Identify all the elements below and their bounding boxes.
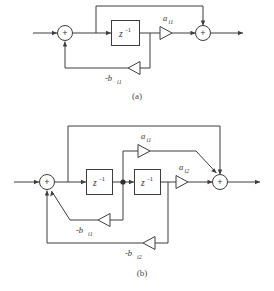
panel-b-delay-block-1-exponent: -1 — [100, 175, 105, 182]
figure-canvas: + z -1 a i1 + — [0, 0, 274, 291]
panel-a-feedback-right-segment — [140, 33, 150, 68]
panel-a-delay-block — [112, 21, 140, 46]
panel-a-caption: (a) — [132, 91, 142, 101]
panel-b-feedback-gain-2-label: -b — [125, 248, 132, 258]
panel-b-bypass-arrowhead — [218, 170, 222, 175]
panel-b-delay-block-1-label: z — [92, 178, 97, 188]
panel-b-right-summer-plus: + — [217, 177, 222, 187]
panel-b-delay-block-1 — [87, 170, 113, 195]
panel-b-left-summer-plus: + — [44, 177, 49, 187]
panel-a-feedback-gain-subscript: i1 — [117, 79, 122, 85]
panel-b-feedback-gain-1-triangle — [98, 214, 110, 227]
panel-b-delay-block-2 — [135, 170, 161, 195]
panel-a-delay-block-label: z — [118, 29, 123, 39]
panel-b-forward-gain-1-triangle — [138, 145, 150, 158]
panel-b-feedback2-arrowhead — [45, 191, 49, 196]
panel-a-left-summer-plus: + — [62, 28, 67, 38]
panel-b-feedback1-arrowhead — [50, 191, 54, 196]
panel-a-output-arrowhead — [238, 31, 243, 35]
panel-a-forward-gain-triangle — [160, 27, 172, 40]
panel-b-input-arrowhead — [34, 180, 39, 184]
panel-a-feedback-gain-label: -b — [105, 73, 112, 83]
panel-b-delay1-input-arrowhead — [81, 180, 86, 184]
signal-flow-diagram: + z -1 a i1 + — [0, 0, 274, 291]
panel-a-delay-block-exponent: -1 — [126, 26, 131, 33]
panel-a-input-arrowhead — [52, 31, 57, 35]
panel-a-bypass-arrowhead — [201, 21, 205, 26]
panel-a-feedback-gain-triangle — [128, 62, 140, 75]
panel-b-feedback-gain-2-triangle — [143, 237, 155, 250]
panel-b-gain1-arrowhead — [211, 168, 216, 173]
panel-b-output-arrowhead — [255, 180, 260, 184]
panel-b-feedback-gain-1-label: -b — [76, 225, 83, 235]
panel-b-forward-gain-2-label: a — [179, 162, 183, 172]
panel-a-right-summer-arrowhead — [191, 31, 196, 35]
panel-a-forward-gain-label: a — [163, 13, 167, 23]
panel-a-delay-input-arrowhead — [106, 31, 111, 35]
panel-b-feedback-gain-1-subscript: i1 — [88, 231, 93, 237]
panel-a-group: + z -1 a i1 + — [33, 6, 243, 101]
panel-b-group: + z -1 a i1 z -1 — [14, 126, 260, 278]
panel-a-forward-gain-subscript: i1 — [169, 19, 174, 25]
panel-b-feedback2-left-segment — [47, 191, 143, 244]
panel-b-delay-block-2-exponent: -1 — [148, 175, 153, 182]
panel-b-forward-gain-2-triangle — [176, 176, 188, 189]
panel-b-forward-gain-1-subscript: i1 — [147, 137, 152, 143]
panel-a-feedback-arrowhead — [63, 42, 67, 47]
panel-b-feedback-gain-2-subscript: i2 — [137, 254, 142, 260]
panel-b-feedback1-left-diagonal — [52, 191, 99, 220]
panel-b-delay2-input-arrowhead — [129, 180, 134, 184]
panel-b-forward-gain-1-label: a — [141, 131, 145, 141]
panel-a-right-summer-plus: + — [200, 28, 205, 38]
panel-b-caption: (b) — [137, 268, 148, 278]
panel-b-delay-block-2-label: z — [140, 178, 145, 188]
panel-b-gain2-arrowhead — [208, 180, 213, 184]
panel-b-forward-gain-2-subscript: i2 — [185, 168, 190, 174]
